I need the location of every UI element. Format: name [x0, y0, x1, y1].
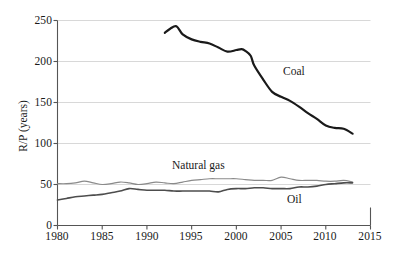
y-axis-title: R/P (years) — [17, 81, 29, 171]
x-tick-1990: 1990 — [135, 230, 158, 242]
x-tick-2010: 2010 — [313, 230, 336, 242]
chart-figure: R/P (years) 250 200 150 100 50 0 1980 19… — [0, 0, 395, 258]
y-tick-250: 250 — [12, 14, 52, 26]
series-line-natural-gas — [58, 177, 353, 184]
x-tick-1995: 1995 — [179, 230, 202, 242]
series-line-coal — [165, 26, 353, 134]
x-tick-2015: 2015 — [358, 230, 381, 242]
x-tick-1985: 1985 — [90, 230, 113, 242]
series-label-natural-gas: Natural gas — [172, 159, 225, 171]
series-line-oil — [58, 183, 353, 200]
data-series-group — [58, 26, 353, 200]
series-label-oil: Oil — [287, 193, 302, 205]
x-tick-1980: 1980 — [45, 230, 68, 242]
x-tick-2005: 2005 — [269, 230, 292, 242]
series-label-coal: Coal — [283, 65, 305, 77]
y-tick-200: 200 — [12, 55, 52, 67]
chart-plot-area — [0, 0, 395, 258]
axis-ticks-group — [54, 21, 371, 230]
y-tick-100: 100 — [12, 137, 52, 149]
x-tick-2000: 2000 — [224, 230, 247, 242]
y-tick-150: 150 — [12, 96, 52, 108]
y-tick-50: 50 — [12, 178, 52, 190]
